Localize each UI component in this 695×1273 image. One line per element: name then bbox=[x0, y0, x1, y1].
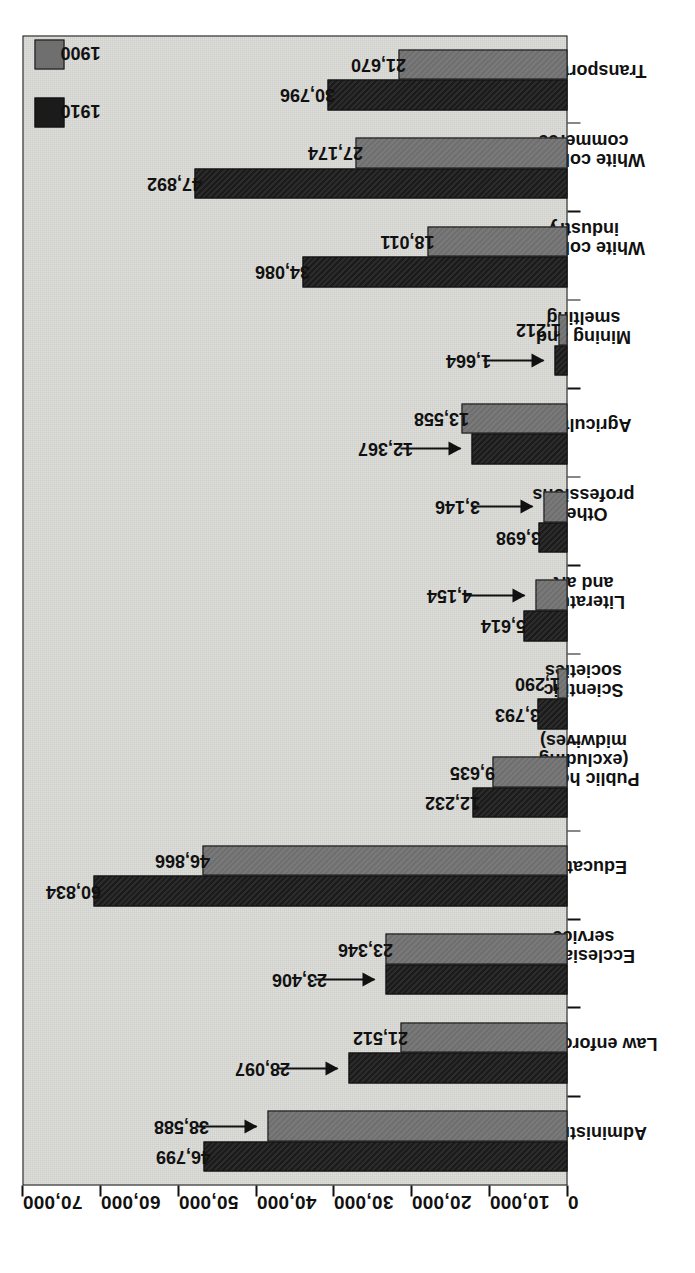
leader-arrow bbox=[472, 505, 532, 507]
category-separator bbox=[567, 564, 580, 566]
leader-arrow bbox=[196, 1125, 256, 1127]
bar-value-label: 47,892 bbox=[147, 172, 202, 193]
tick-label: 60,000 bbox=[100, 1190, 160, 1212]
bar-1910 bbox=[302, 256, 567, 287]
category-separator bbox=[567, 476, 580, 478]
bar-1910 bbox=[538, 522, 567, 553]
bar-1910 bbox=[93, 875, 567, 906]
bar-1910 bbox=[537, 698, 567, 729]
bar-1900 bbox=[355, 137, 567, 168]
bar-value-label: 46,799 bbox=[155, 1146, 210, 1167]
category-separator bbox=[567, 1006, 580, 1008]
bar-value-label: 21,670 bbox=[351, 53, 406, 74]
category-separator bbox=[567, 1095, 580, 1097]
tick-label: 50,000 bbox=[178, 1190, 238, 1212]
leader-arrow bbox=[483, 359, 543, 361]
bar-1910 bbox=[523, 610, 567, 641]
leader-arrow bbox=[464, 594, 524, 596]
bar-value-label: 1,212 bbox=[515, 319, 560, 340]
bar-value-label: 30,796 bbox=[280, 84, 335, 105]
category-separator bbox=[567, 830, 580, 832]
bar-value-label: 1,290 bbox=[514, 673, 559, 694]
bar-value-label: 46,866 bbox=[155, 850, 210, 871]
tick-label: 10,000 bbox=[489, 1190, 549, 1212]
bar-value-label: 13,558 bbox=[414, 407, 469, 428]
bar-1900 bbox=[202, 845, 567, 876]
category-separator bbox=[567, 122, 580, 124]
arrow-head-icon bbox=[448, 441, 461, 455]
bar-1910 bbox=[385, 964, 567, 995]
bar-value-label: 9,635 bbox=[449, 761, 494, 782]
bar-1900 bbox=[398, 49, 567, 80]
chart-figure: 010,00020,00030,00040,00050,00060,00070,… bbox=[0, 0, 695, 1273]
bar-value-label: 34,086 bbox=[254, 261, 309, 282]
tick-label: 0 bbox=[567, 1190, 578, 1212]
category-separator bbox=[567, 210, 580, 212]
bar-1900 bbox=[461, 403, 567, 434]
tick-label: 30,000 bbox=[333, 1190, 393, 1212]
tick-label: 20,000 bbox=[411, 1190, 471, 1212]
bar-value-label: 3,698 bbox=[496, 526, 541, 547]
category-separator bbox=[567, 918, 580, 920]
arrow-head-icon bbox=[362, 972, 375, 986]
bar-1910 bbox=[348, 1052, 567, 1083]
bar-1900 bbox=[492, 756, 567, 787]
tick-label: 70,000 bbox=[22, 1190, 82, 1212]
category-separator bbox=[567, 741, 580, 743]
bar-1910 bbox=[203, 1141, 567, 1172]
leader-arrow bbox=[314, 978, 374, 980]
arrow-head-icon bbox=[512, 588, 525, 602]
legend-item-1910: 1910 bbox=[34, 92, 89, 132]
leader-arrow bbox=[277, 1067, 337, 1069]
category-separator bbox=[567, 387, 580, 389]
bar-value-label: 12,232 bbox=[424, 792, 479, 813]
bar-value-label: 5,614 bbox=[481, 615, 526, 636]
bar-1910 bbox=[554, 345, 567, 376]
bar-value-label: 21,512 bbox=[352, 1027, 407, 1048]
bar-value-label: 18,011 bbox=[380, 230, 434, 251]
bar-1900 bbox=[400, 1022, 567, 1053]
legend-item-1900: 1900 bbox=[34, 34, 89, 74]
arrow-head-icon bbox=[531, 353, 544, 367]
chart-legend: 1900 1910 bbox=[34, 34, 89, 132]
arrow-head-icon bbox=[520, 499, 533, 513]
bar-1910 bbox=[194, 168, 567, 199]
bar-1900 bbox=[267, 1110, 567, 1141]
bar-1900 bbox=[427, 226, 567, 257]
arrow-head-icon bbox=[244, 1119, 257, 1133]
bar-1910 bbox=[471, 433, 567, 464]
category-separator bbox=[567, 299, 580, 301]
bar-1900 bbox=[535, 579, 567, 610]
legend-label-1910: 1910 bbox=[60, 103, 100, 121]
bar-value-label: 3,793 bbox=[495, 703, 540, 724]
plot-area bbox=[22, 35, 567, 1185]
bar-1910 bbox=[472, 787, 567, 818]
arrow-head-icon bbox=[325, 1061, 338, 1075]
bar-value-label: 27,174 bbox=[308, 142, 363, 163]
bar-1900 bbox=[543, 491, 567, 522]
leader-arrow bbox=[400, 447, 460, 449]
bar-value-label: 60,834 bbox=[46, 880, 101, 901]
legend-label-1900: 1900 bbox=[60, 45, 100, 63]
bar-1900 bbox=[385, 933, 567, 964]
bar-1910 bbox=[327, 79, 567, 110]
bar-value-label: 23,346 bbox=[338, 938, 393, 959]
category-separator bbox=[567, 653, 580, 655]
tick-label: 40,000 bbox=[256, 1190, 316, 1212]
